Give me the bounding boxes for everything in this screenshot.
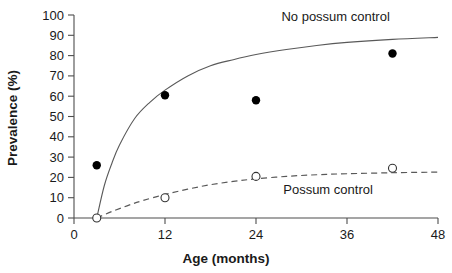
y-axis-title: Prevalence (%) (5, 70, 20, 166)
y-tick-label-100: 100 (42, 8, 64, 23)
y-tick-label-20: 20 (50, 170, 64, 185)
prevalence-vs-age-scatter-chart: 0102030405060708090100 012243648 No poss… (0, 0, 452, 273)
x-axis-tick-labels: 012243648 (70, 227, 445, 242)
x-axis-tick-marks (74, 218, 438, 224)
x-axis-title: Age (months) (183, 251, 270, 266)
series-inline-annotations: No possum controlPossum control (281, 9, 389, 197)
x-tick-label-36: 36 (340, 227, 354, 242)
y-tick-label-30: 30 (50, 150, 64, 165)
data-point-series-1-0 (93, 214, 101, 222)
data-point-series-0-1 (161, 91, 169, 99)
y-tick-label-10: 10 (50, 190, 64, 205)
data-point-series-1-2 (252, 172, 260, 180)
x-tick-label-24: 24 (249, 227, 263, 242)
y-tick-label-0: 0 (57, 211, 64, 226)
chart-figure: 0102030405060708090100 012243648 No poss… (0, 0, 452, 273)
fitted-curve-series-1 (97, 172, 438, 218)
data-point-series-1-1 (161, 194, 169, 202)
x-tick-label-12: 12 (158, 227, 172, 242)
y-tick-label-50: 50 (50, 109, 64, 124)
annotation-no-possum-control: No possum control (281, 9, 389, 24)
data-point-series-1-3 (389, 164, 397, 172)
y-tick-label-90: 90 (50, 28, 64, 43)
annotation-possum-control: Possum control (283, 182, 373, 197)
y-axis-group: 0102030405060708090100 (42, 8, 74, 226)
fitted-curve-series-0 (97, 37, 438, 218)
data-point-series-0-0 (93, 161, 101, 169)
data-point-series-0-3 (388, 49, 396, 57)
x-tick-label-48: 48 (431, 227, 445, 242)
y-tick-label-40: 40 (50, 129, 64, 144)
y-axis-tick-marks (68, 15, 74, 218)
x-axis-group: 012243648 (70, 218, 445, 242)
y-tick-label-70: 70 (50, 68, 64, 83)
y-tick-label-60: 60 (50, 89, 64, 104)
data-point-series-0-2 (252, 96, 260, 104)
y-tick-label-80: 80 (50, 48, 64, 63)
y-axis-tick-labels: 0102030405060708090100 (42, 8, 64, 226)
series-fitted-curves (97, 37, 438, 218)
x-tick-label-0: 0 (70, 227, 77, 242)
